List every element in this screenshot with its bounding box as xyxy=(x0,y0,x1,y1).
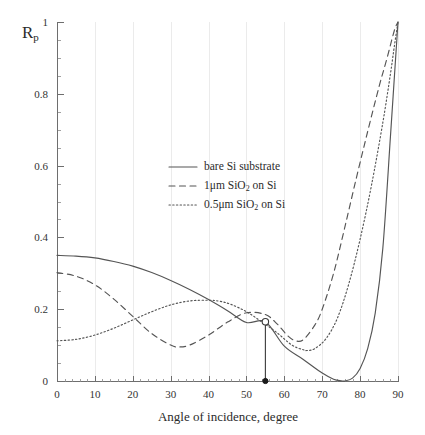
y-axis-title-subscript: p xyxy=(33,31,39,43)
x-tick-label: 90 xyxy=(393,389,404,400)
x-tick-label: 20 xyxy=(127,389,138,400)
x-tick-label: 0 xyxy=(54,389,60,400)
legend-label-1um-sio2-sub: 2 xyxy=(246,184,250,193)
x-tick-label: 40 xyxy=(203,389,214,400)
chart-legend: bare Si substrate 1μm SiO2 on Si 0.5μm S… xyxy=(168,157,343,214)
x-tick-label: 70 xyxy=(317,389,328,400)
x-tick-label: 80 xyxy=(355,389,366,400)
y-tick-label: 0.8 xyxy=(0,88,48,99)
legend-item-05um-sio2: 0.5μm SiO2 on Si xyxy=(168,195,343,214)
x-tick-label: 50 xyxy=(241,389,252,400)
dotted-line-sample xyxy=(168,199,198,211)
legend-label-bare-si: bare Si substrate xyxy=(204,161,280,173)
brewster-point-marker xyxy=(262,319,268,325)
dashed-line-sample xyxy=(168,180,198,192)
brewster-axis-marker xyxy=(263,378,268,383)
legend-label-05um-sio2: 0.5μm SiO2 on Si xyxy=(204,199,285,211)
x-tick-label: 60 xyxy=(279,389,290,400)
reflectance-chart-figure: Rp Angle of incidence, degree 0102030405… xyxy=(0,0,425,435)
y-tick-label: 0 xyxy=(0,376,48,387)
x-tick-label: 30 xyxy=(165,389,176,400)
legend-label-05um-sio2-sub: 2 xyxy=(254,203,258,212)
legend-label-1um-sio2: 1μm SiO2 on Si xyxy=(204,180,276,192)
legend-label-1um-sio2-base: 1μm SiO xyxy=(204,179,246,191)
y-tick-label: 0.6 xyxy=(0,160,48,171)
y-tick-label: 0.2 xyxy=(0,304,48,315)
legend-item-1um-sio2: 1μm SiO2 on Si xyxy=(168,176,343,195)
solid-line-sample xyxy=(168,161,198,173)
y-tick-label: 1 xyxy=(0,17,48,28)
y-tick-label: 0.4 xyxy=(0,232,48,243)
legend-label-05um-sio2-base: 0.5μm SiO xyxy=(204,198,254,210)
legend-label-05um-sio2-tail: on Si xyxy=(258,198,285,210)
legend-item-bare-si: bare Si substrate xyxy=(168,157,343,176)
plot-canvas xyxy=(0,0,425,435)
annotations-group xyxy=(262,319,268,384)
x-tick-label: 10 xyxy=(89,389,100,400)
legend-label-1um-sio2-tail: on Si xyxy=(250,179,277,191)
x-axis-title: Angle of incidence, degree xyxy=(57,410,399,423)
